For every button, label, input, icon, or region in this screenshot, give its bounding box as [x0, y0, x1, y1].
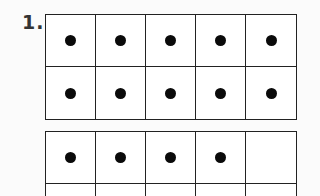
ten-frame-cell [146, 67, 196, 119]
counter-dot-icon [65, 152, 76, 163]
ten-frame-cell [46, 15, 96, 67]
ten-frame-cell [196, 184, 246, 196]
ten-frame-cell [96, 132, 146, 184]
counter-dot-icon [65, 35, 76, 46]
ten-frame-cell [196, 67, 246, 119]
counter-dot-icon [65, 88, 76, 99]
ten-frame-cell [46, 67, 96, 119]
ten-frame-cell [246, 15, 296, 67]
counter-dot-icon [215, 88, 226, 99]
ten-frame-2 [45, 131, 297, 196]
ten-frame-cell [146, 15, 196, 67]
counter-dot-icon [215, 152, 226, 163]
ten-frame-cell [196, 15, 246, 67]
counter-dot-icon [115, 152, 126, 163]
counter-dot-icon [165, 35, 176, 46]
ten-frame-cell [246, 67, 296, 119]
counter-dot-icon [165, 88, 176, 99]
counter-dot-icon [215, 35, 226, 46]
ten-frame-cell [196, 132, 246, 184]
ten-frame-cell [46, 132, 96, 184]
ten-frame-cell [46, 184, 96, 196]
ten-frame-cell [246, 184, 296, 196]
counter-dot-icon [165, 152, 176, 163]
counter-dot-icon [266, 35, 277, 46]
ten-frame-cell [96, 67, 146, 119]
ten-frame-1 [45, 14, 297, 120]
counter-dot-icon [115, 35, 126, 46]
counter-dot-icon [266, 88, 277, 99]
ten-frame-cell [246, 132, 296, 184]
counter-dot-icon [115, 88, 126, 99]
ten-frame-cell [146, 184, 196, 196]
ten-frame-cell [146, 132, 196, 184]
ten-frame-cell [96, 184, 146, 196]
problem-number: 1. [22, 11, 44, 33]
ten-frame-cell [96, 15, 146, 67]
